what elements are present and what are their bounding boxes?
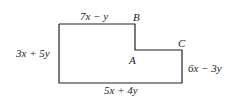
top-side-label: 7x − y <box>80 11 108 22</box>
vertex-b-label: B <box>133 12 140 23</box>
bottom-side-label: 5x + 4y <box>104 85 138 96</box>
right-side-label: 6x − 3y <box>188 63 222 74</box>
figure-outline <box>59 24 182 83</box>
vertex-a-label: A <box>129 55 136 66</box>
vertex-c-label: C <box>178 38 185 49</box>
left-side-label: 3x + 5y <box>16 48 50 59</box>
l-shape-diagram: 7x − y B 3x + 5y A C 6x − 3y 5x + 4y <box>0 0 238 102</box>
